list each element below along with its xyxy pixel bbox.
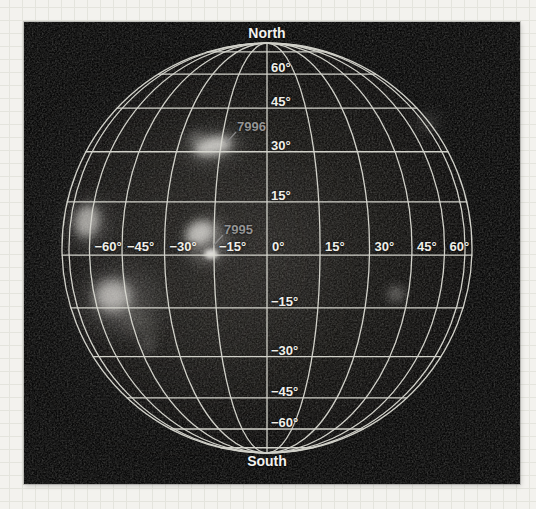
- longitude-label--30: −30°: [170, 239, 197, 254]
- active-region-label-7995: 7995: [224, 222, 253, 237]
- longitude-label-30: 30°: [375, 239, 395, 254]
- latitude-label--15: −15°: [271, 293, 298, 308]
- latitude-label--45: −45°: [271, 383, 298, 398]
- latitude-label-30: 30°: [271, 137, 291, 152]
- longitude-label-15: 15°: [325, 239, 345, 254]
- solar-image: North South −60°−45°−30°−15°0°15°30°45°6…: [24, 22, 520, 484]
- longitude-label-60: 60°: [450, 239, 470, 254]
- longitude-label--45: −45°: [127, 239, 154, 254]
- latitude-label-60: 60°: [271, 60, 291, 75]
- north-pole-label: North: [248, 25, 285, 41]
- longitude-label--60: −60°: [94, 239, 121, 254]
- latitude-label--60: −60°: [271, 415, 298, 430]
- latitude-label--30: −30°: [271, 342, 298, 357]
- longitude-label-0: 0°: [272, 239, 284, 254]
- south-pole-label: South: [247, 453, 287, 469]
- notebook-page: North South −60°−45°−30°−15°0°15°30°45°6…: [0, 0, 536, 509]
- active-region-label-7996: 7996: [237, 119, 266, 134]
- latitude-label-45: 45°: [271, 94, 291, 109]
- latitude-label-15: 15°: [271, 187, 291, 202]
- longitude-label--15: −15°: [219, 239, 246, 254]
- longitude-label-45: 45°: [417, 239, 437, 254]
